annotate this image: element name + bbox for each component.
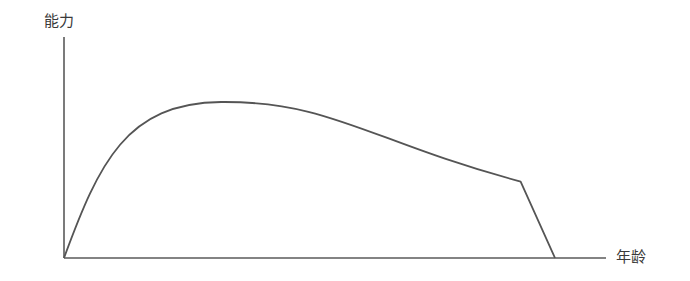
ability-curve — [64, 102, 555, 258]
ability-age-chart — [0, 0, 690, 281]
x-axis-label: 年龄 — [616, 250, 646, 265]
y-axis-label: 能力 — [44, 14, 74, 29]
